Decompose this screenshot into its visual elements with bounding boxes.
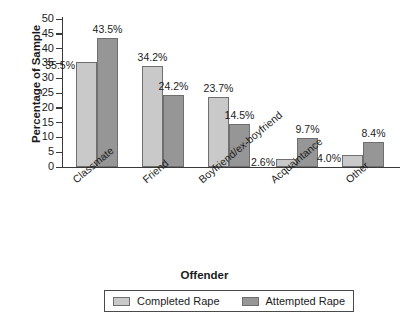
chart-legend: Completed Rape Attempted Rape	[104, 290, 354, 312]
legend-item-attempted: Attempted Rape	[242, 296, 346, 307]
category-label-0: Classmate	[70, 144, 116, 185]
category-label-3: Acquaintance	[268, 135, 324, 185]
bar-chart: Percentage of Sample 5045403530252015105…	[0, 0, 409, 330]
dark-gray-swatch-icon	[242, 297, 259, 306]
legend-label-attempted: Attempted Rape	[266, 296, 346, 307]
light-gray-swatch-icon	[113, 297, 130, 306]
category-label-4: Other	[343, 159, 371, 185]
legend-label-completed: Completed Rape	[137, 296, 220, 307]
x-axis-title: Offender	[0, 269, 409, 281]
category-label-1: Friend	[140, 157, 171, 185]
legend-item-completed: Completed Rape	[113, 296, 220, 307]
